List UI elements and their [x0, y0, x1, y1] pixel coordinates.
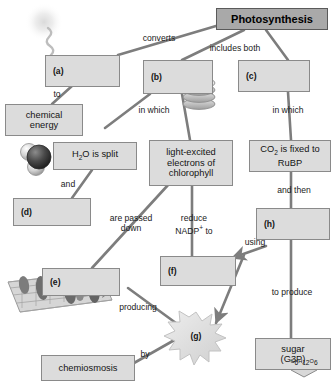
- glucose-formula: C6H12O6: [288, 356, 320, 368]
- node-b-label: (b): [151, 72, 162, 83]
- co2-line2: RuBP: [278, 158, 302, 169]
- node-chemical-energy-line1: chemical: [26, 110, 63, 121]
- node-chemiosmosis[interactable]: chemiosmosis: [41, 355, 135, 381]
- node-g[interactable]: (g): [176, 329, 216, 343]
- node-d-label: (d): [21, 207, 32, 218]
- light-excited-line2: electrons of: [167, 158, 215, 169]
- label-are-passed-down: are passed down: [104, 214, 158, 233]
- node-f-label: (f): [168, 266, 177, 277]
- node-h-label: (h): [264, 219, 275, 230]
- node-f[interactable]: (f): [160, 256, 236, 286]
- node-light-excited-electrons[interactable]: light-excited electrons of chlorophyll: [149, 140, 233, 186]
- water-molecule-icon: [21, 144, 52, 176]
- node-chemical-energy-line2: energy: [30, 120, 58, 131]
- label-to-produce: to produce: [264, 288, 320, 298]
- label-to: to: [47, 90, 67, 100]
- node-photosynthesis[interactable]: Photosynthesis: [216, 8, 328, 30]
- node-c[interactable]: (c): [238, 60, 310, 92]
- node-a[interactable]: (a): [45, 55, 120, 87]
- label-in-which-right: in which: [264, 106, 312, 116]
- connector-h-to-f-using: [232, 246, 266, 258]
- node-e[interactable]: (e): [42, 268, 120, 296]
- node-g-label: (g): [191, 331, 202, 341]
- label-includes-both: includes both: [199, 44, 271, 54]
- node-co2-fixed-to-rubp[interactable]: CO2 is fixed to RuBP: [249, 140, 331, 172]
- node-h2o-is-split[interactable]: H2O is split: [53, 142, 137, 170]
- node-b[interactable]: (b): [143, 60, 213, 94]
- light-excited-line1: light-excited: [166, 147, 216, 158]
- node-c-label: (c): [246, 71, 257, 82]
- label-using: using: [238, 238, 272, 248]
- label-nadp: NADP+ to: [175, 226, 212, 236]
- label-and-then: and then: [268, 186, 320, 196]
- label-converts: converts: [134, 34, 184, 44]
- label-by: by: [136, 350, 154, 360]
- node-chemiosmosis-label: chemiosmosis: [59, 363, 118, 374]
- connector-c-to-co2: [288, 92, 291, 140]
- label-and: and: [56, 180, 80, 190]
- label-down: down: [121, 223, 142, 233]
- node-photosynthesis-label: Photosynthesis: [231, 14, 313, 25]
- node-chemical-energy[interactable]: chemical energy: [5, 104, 83, 136]
- label-reduce-nadp-to: reduce NADP+ to: [166, 214, 222, 237]
- light-excited-line3: chlorophyll: [169, 168, 213, 179]
- label-producing: producing: [110, 303, 166, 313]
- node-h[interactable]: (h): [256, 208, 330, 240]
- label-in-which-left: in which: [130, 106, 178, 116]
- node-sugar-line1: sugar: [281, 344, 304, 355]
- co2-line1: CO2 is fixed to: [260, 144, 319, 158]
- label-are-passed: are passed: [110, 213, 153, 223]
- label-reduce: reduce: [181, 213, 207, 223]
- node-h2o-is-split-label: H2O is split: [72, 149, 118, 163]
- node-a-label: (a): [53, 66, 64, 77]
- node-e-label: (e): [50, 277, 61, 288]
- node-d[interactable]: (d): [13, 198, 91, 226]
